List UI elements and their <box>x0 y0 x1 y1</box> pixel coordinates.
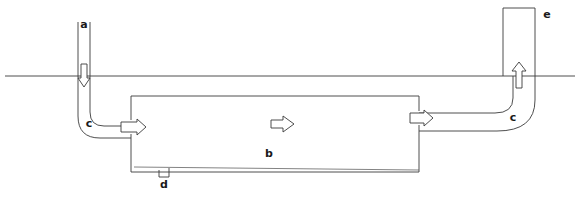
tank-center-flow-arrow <box>271 116 294 132</box>
tank-b <box>131 96 419 172</box>
diagram-canvas: a b c c d e <box>0 0 580 199</box>
label-inlet-pipe-a: a <box>80 18 87 31</box>
tank-outlet-arrow <box>410 110 433 126</box>
label-tank-b: b <box>265 147 273 160</box>
tank-inlet-arrow <box>121 119 146 135</box>
label-elbow-right-c: c <box>510 111 517 124</box>
riser-flow-arrow <box>512 62 526 88</box>
drain-notch-d <box>159 168 169 177</box>
label-elbow-left-c: c <box>86 117 93 130</box>
inlet-flow-arrow <box>78 64 90 87</box>
label-riser-pipe-e: e <box>543 8 550 21</box>
label-drain-d: d <box>160 178 168 191</box>
